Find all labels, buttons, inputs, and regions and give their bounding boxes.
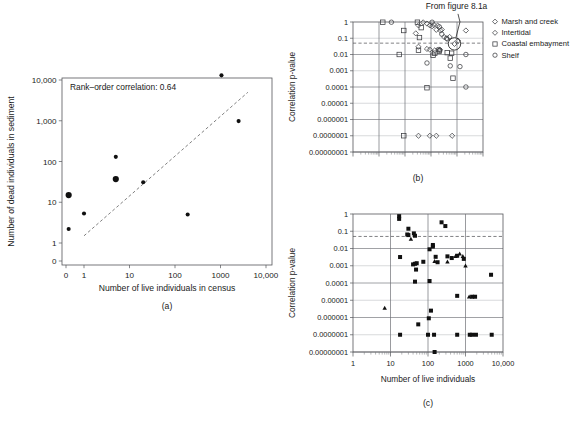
data-point xyxy=(445,259,449,263)
data-point xyxy=(490,333,494,337)
data-point xyxy=(382,306,386,310)
svg-text:100: 100 xyxy=(168,271,182,280)
data-point xyxy=(409,237,413,241)
data-point xyxy=(413,234,417,238)
reference-line xyxy=(84,92,248,236)
panel-a-ylabel: Number of dead individuals in sediment xyxy=(6,96,16,247)
svg-text:0.00000001: 0.00000001 xyxy=(309,148,348,157)
data-point xyxy=(451,76,455,80)
panel-a-caption: (a) xyxy=(162,301,173,311)
svg-text:0.001: 0.001 xyxy=(330,66,349,75)
data-point xyxy=(429,309,433,313)
data-point xyxy=(186,212,190,216)
data-point xyxy=(434,255,438,259)
panel-c-plot: 10.10.010.0010.00010.000010.0000010.0000… xyxy=(278,192,580,421)
svg-c-caption: (c) xyxy=(423,398,433,408)
svg-text:1000: 1000 xyxy=(457,359,473,368)
highlight-circle xyxy=(448,38,460,50)
svg-b-caption: (b) xyxy=(413,173,424,183)
svg-text:0.00001: 0.00001 xyxy=(321,296,348,305)
data-point xyxy=(82,211,86,215)
data-point xyxy=(416,322,420,326)
legend-marker-3 xyxy=(493,53,497,57)
data-point xyxy=(489,273,493,277)
svg-text:0.0001: 0.0001 xyxy=(325,83,348,92)
data-point xyxy=(433,350,437,354)
legend-label-2: Coastal embayment xyxy=(502,39,570,48)
from-figure-note: From figure 8.1a xyxy=(426,1,488,11)
data-point xyxy=(473,295,477,299)
svg-text:0.00000001: 0.00000001 xyxy=(309,348,348,357)
data-point xyxy=(398,255,402,259)
data-point xyxy=(219,73,223,77)
data-point xyxy=(66,192,72,198)
svg-text:0.0000001: 0.0000001 xyxy=(313,330,348,339)
svg-text:0.01: 0.01 xyxy=(334,50,348,59)
data-point xyxy=(448,64,452,68)
legend-label-3: Shelf xyxy=(502,51,520,60)
data-point xyxy=(428,279,432,283)
data-point xyxy=(406,227,410,231)
data-point xyxy=(450,256,454,260)
callout-leader-line xyxy=(456,14,460,38)
svg-b-ylabel: Correlation p-value xyxy=(287,52,297,122)
data-point xyxy=(448,56,452,60)
data-point xyxy=(455,333,459,337)
svg-text:0: 0 xyxy=(64,271,69,280)
data-point xyxy=(406,233,410,237)
svg-text:0.0000001: 0.0000001 xyxy=(313,131,348,140)
svg-text:0.000001: 0.000001 xyxy=(317,313,348,322)
data-point xyxy=(67,227,71,231)
data-point xyxy=(432,333,436,337)
svg-text:0.0001: 0.0001 xyxy=(325,279,348,288)
svg-text:1: 1 xyxy=(344,210,348,219)
data-point xyxy=(237,119,241,123)
svg-text:10,000: 10,000 xyxy=(492,359,515,368)
data-point xyxy=(397,217,401,221)
svg-text:10,000: 10,000 xyxy=(32,76,57,85)
svg-text:10: 10 xyxy=(386,359,394,368)
data-point xyxy=(431,245,435,249)
svg-text:0: 0 xyxy=(52,257,57,266)
legend-marker-1 xyxy=(493,30,498,35)
svg-text:10,000: 10,000 xyxy=(254,271,279,280)
data-point xyxy=(113,176,119,182)
data-point xyxy=(470,333,474,337)
panel-a: 0110100100010,00001101001,00010,000Rank–… xyxy=(0,60,285,310)
data-point xyxy=(416,44,421,49)
data-point xyxy=(427,316,431,320)
data-point xyxy=(414,268,418,272)
legend-marker-2 xyxy=(493,42,497,46)
svg-text:1,000: 1,000 xyxy=(36,117,57,126)
rank-order-correlation-label: Rank–order correlation: 0.64 xyxy=(70,82,176,92)
data-point xyxy=(416,48,420,52)
data-point xyxy=(417,35,421,39)
data-point xyxy=(114,155,118,159)
svg-c-xlabel: Number of live individuals xyxy=(381,374,476,384)
data-point xyxy=(443,224,447,228)
svg-text:1: 1 xyxy=(344,18,348,27)
data-point xyxy=(398,333,402,337)
data-point xyxy=(455,294,459,298)
panel-a-frame xyxy=(62,78,272,265)
panel-a-xlabel: Number of live individuals in census xyxy=(99,283,236,293)
svg-text:100: 100 xyxy=(422,359,434,368)
data-point xyxy=(402,28,406,32)
svg-text:0.01: 0.01 xyxy=(334,244,348,253)
data-point xyxy=(413,280,417,284)
svg-text:0.00001: 0.00001 xyxy=(321,99,348,108)
data-point xyxy=(457,251,461,255)
panel-b-plot: 10.10.010.0010.00010.000010.0000010.0000… xyxy=(278,0,580,195)
svg-text:1: 1 xyxy=(52,239,57,248)
panel-c: 10.10.010.0010.00010.000010.0000010.0000… xyxy=(278,192,580,421)
data-point xyxy=(415,261,419,265)
data-point xyxy=(141,180,145,184)
legend-label-1: Intertidal xyxy=(502,28,531,37)
svg-text:1000: 1000 xyxy=(211,271,230,280)
data-point xyxy=(425,86,429,90)
data-point xyxy=(426,333,430,337)
panel-b: 10.10.010.0010.00010.000010.0000010.0000… xyxy=(278,0,580,195)
legend-marker-0 xyxy=(493,19,498,24)
svg-text:0.000001: 0.000001 xyxy=(317,115,348,124)
data-point xyxy=(440,220,444,224)
